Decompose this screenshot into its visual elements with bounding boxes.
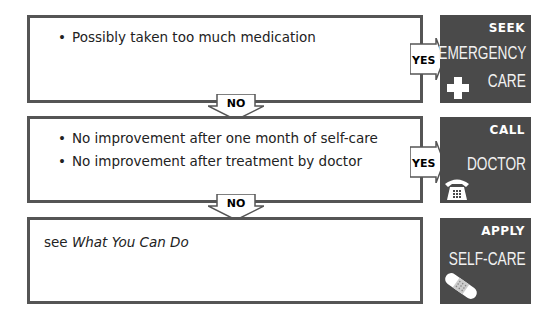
condition-box-2: No improvement after one month of self-c…: [27, 116, 423, 203]
outcome-action-line-1: DOCTOR: [467, 153, 526, 175]
condition-box-1: Possibly taken too much medication: [27, 15, 423, 103]
condition-item: No improvement after one month of self-c…: [58, 127, 420, 150]
condition-box-3: see What You Can Do: [27, 217, 423, 304]
medical-cross-icon: [447, 77, 469, 99]
yes-arrow-2: YES: [410, 141, 444, 183]
svg-text:YES: YES: [411, 157, 435, 170]
see-prefix: see: [44, 234, 72, 250]
outcome-panel-doctor: CALL DOCTOR: [440, 117, 531, 203]
outcome-action-line-1: EMERGENCY: [438, 42, 526, 64]
outcome-verb: SEEK: [489, 21, 525, 35]
svg-text:YES: YES: [411, 54, 435, 67]
outcome-action-line-2: CARE: [488, 70, 526, 92]
outcome-panel-self-care: APPLY SELF-CARE: [440, 218, 531, 304]
bandage-icon: [442, 270, 480, 302]
outcome-verb: APPLY: [481, 224, 525, 238]
condition-list-2: No improvement after one month of self-c…: [58, 127, 420, 173]
svg-text:NO: NO: [227, 197, 246, 210]
condition-item: Possibly taken too much medication: [58, 26, 420, 49]
telephone-icon: [444, 177, 470, 201]
svg-text:NO: NO: [227, 97, 246, 110]
outcome-panel-emergency: SEEK EMERGENCY CARE: [440, 15, 531, 103]
condition-list-1: Possibly taken too much medication: [58, 26, 420, 49]
outcome-verb: CALL: [490, 123, 525, 137]
condition-item: No improvement after treatment by doctor: [58, 150, 420, 173]
outcome-action-line-1: SELF-CARE: [449, 248, 526, 270]
see-link-what-you-can-do[interactable]: What You Can Do: [72, 234, 189, 250]
